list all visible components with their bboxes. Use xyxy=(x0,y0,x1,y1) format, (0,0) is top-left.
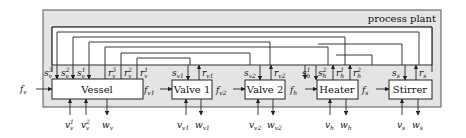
svg-text:Valve 2: Valve 2 xyxy=(246,84,284,95)
svg-text:s2h: s2h xyxy=(318,66,327,79)
svg-text:s2v: s2v xyxy=(61,66,70,79)
valve1-block: Valve 1 xyxy=(172,80,212,99)
svg-text:s3v: s3v xyxy=(44,66,53,79)
svg-text:r3v: r3v xyxy=(108,66,116,79)
svg-text:v2v: v2v xyxy=(81,118,90,131)
svg-text:vh: vh xyxy=(325,120,334,131)
svg-text:s1h: s1h xyxy=(302,66,310,79)
svg-text:vv1: vv1 xyxy=(177,120,189,131)
svg-text:wv2: wv2 xyxy=(267,120,282,131)
svg-text:Vessel: Vessel xyxy=(80,84,113,95)
svg-text:wv: wv xyxy=(102,120,114,131)
svg-text:wh: wh xyxy=(340,120,352,131)
svg-text:r2h: r2h xyxy=(353,66,361,79)
heater-block: Heater xyxy=(317,80,358,99)
svg-text:vv2: vv2 xyxy=(249,120,261,131)
svg-text:ws: ws xyxy=(412,120,423,131)
svg-text:fv: fv xyxy=(19,84,27,95)
process-plant-diagram: process plant xyxy=(0,0,466,138)
svg-text:vs: vs xyxy=(397,120,405,131)
svg-text:wv1: wv1 xyxy=(195,120,210,131)
stirrer-block: Stirrer xyxy=(389,80,432,99)
svg-text:v1v: v1v xyxy=(65,118,74,131)
vessel-block: Vessel xyxy=(52,79,143,99)
process-plant-title: process plant xyxy=(368,13,436,24)
svg-text:r1v: r1v xyxy=(140,66,148,79)
svg-text:r1h: r1h xyxy=(336,66,344,79)
valve2-block: Valve 2 xyxy=(245,80,285,99)
svg-text:s1v: s1v xyxy=(77,66,85,79)
svg-text:Stirrer: Stirrer xyxy=(393,84,428,95)
svg-text:r2v: r2v xyxy=(124,66,132,79)
svg-text:Valve 1: Valve 1 xyxy=(173,84,211,95)
external-io-labels: v1v v2v wv vv1 wv1 vv2 wv2 vh wh vs ws xyxy=(65,118,423,131)
svg-text:Heater: Heater xyxy=(319,84,355,95)
